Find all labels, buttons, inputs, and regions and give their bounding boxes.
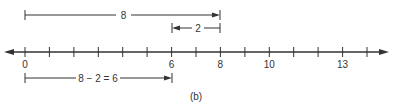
tick-label-6: 6 bbox=[169, 59, 175, 70]
segment-middle-label: 2 bbox=[195, 23, 201, 34]
segment-top-label: 8 bbox=[121, 10, 127, 21]
figure-caption: (b) bbox=[190, 91, 202, 102]
axis-arrow-left-icon bbox=[4, 49, 14, 55]
segment-bottom-label: 8 − 2 = 6 bbox=[78, 73, 118, 84]
tick-label-10: 10 bbox=[264, 59, 276, 70]
tick-label-13: 13 bbox=[337, 59, 349, 70]
axis bbox=[4, 47, 389, 57]
tick-label-0: 0 bbox=[22, 59, 28, 70]
number-line-diagram: 8 2 8 − 2 = 6 0 6 8 10 13 (b) bbox=[0, 0, 393, 106]
arrowhead-right-icon bbox=[212, 13, 220, 18]
arrowhead-right-icon bbox=[164, 76, 172, 81]
arrowhead-left-icon bbox=[172, 26, 180, 31]
tick-label-8: 8 bbox=[218, 59, 224, 70]
axis-arrow-right-icon bbox=[379, 49, 389, 55]
